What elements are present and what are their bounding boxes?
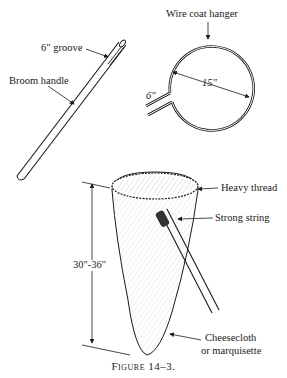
- strong-string-label: Strong string: [215, 213, 270, 224]
- material-label-line1: Cheesecloth: [205, 333, 256, 344]
- coat-hanger-label: Wire coat hanger: [166, 9, 238, 20]
- broom-handle-label: Broom handle: [9, 76, 69, 87]
- figure-caption: Figure 14–3.: [0, 360, 287, 372]
- material-label-line2: or marquisette: [201, 346, 261, 357]
- net-length-label: 30"-36": [73, 260, 106, 271]
- heavy-thread-label: Heavy thread: [221, 183, 277, 194]
- diameter-label: 15": [202, 78, 217, 89]
- figure-14-3: 6" groove Broom handle Wire coat hanger …: [0, 0, 287, 378]
- groove-label: 6" groove: [41, 43, 82, 54]
- broom-handle-drawing: [17, 39, 127, 180]
- coat-hanger-drawing: [146, 22, 254, 130]
- extension-label: 6": [146, 91, 156, 102]
